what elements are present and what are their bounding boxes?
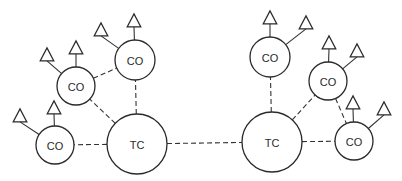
tc-node: TC <box>242 112 302 172</box>
node-label: TC <box>265 137 280 149</box>
terminal-triangle-icon <box>69 41 83 54</box>
terminal-link <box>286 29 306 45</box>
co-node: CO <box>36 126 74 164</box>
terminal-triangle-icon <box>40 48 54 61</box>
terminal-triangle-icon <box>94 23 108 36</box>
node-label: CO <box>68 81 85 93</box>
terminal-link <box>368 115 384 129</box>
trunk-link <box>270 77 271 112</box>
terminal-triangle-icon <box>47 101 61 114</box>
trunk-link <box>90 99 115 123</box>
node-label: TC <box>130 139 145 151</box>
terminal-triangle-icon <box>346 96 360 109</box>
trunk-link <box>167 142 242 143</box>
terminal-triangle-icon <box>377 102 391 115</box>
terminal-triangle-icon <box>322 36 336 49</box>
terminal-link <box>47 61 62 74</box>
terminal-triangle-icon <box>299 16 313 29</box>
trunk-link <box>292 95 315 120</box>
terminal-link <box>343 57 357 69</box>
co-node: CO <box>250 37 290 77</box>
terminal-triangle-icon <box>127 14 141 27</box>
node-label: CO <box>320 76 337 88</box>
terminal-link <box>101 36 119 49</box>
terminal-triangle-icon <box>13 109 27 122</box>
co-node: CO <box>57 67 95 105</box>
terminal-triangle-icon <box>350 44 364 57</box>
node-label: CO <box>47 140 64 152</box>
terminal-link <box>20 122 39 135</box>
trunk-link <box>336 98 347 123</box>
nodes: TCTCCOCOCOCOCOCO <box>36 37 373 174</box>
co-node: CO <box>335 122 373 160</box>
network-diagram: TCTCCOCOCOCOCOCO <box>0 0 402 181</box>
co-node: CO <box>309 62 347 100</box>
terminal-triangle-icon <box>263 11 277 24</box>
node-label: CO <box>346 136 363 148</box>
trunk-link <box>135 80 136 114</box>
tc-node: TC <box>107 114 167 174</box>
node-label: CO <box>127 55 144 67</box>
node-label: CO <box>262 52 279 64</box>
trunk-link <box>93 68 116 78</box>
co-node: CO <box>115 40 155 80</box>
